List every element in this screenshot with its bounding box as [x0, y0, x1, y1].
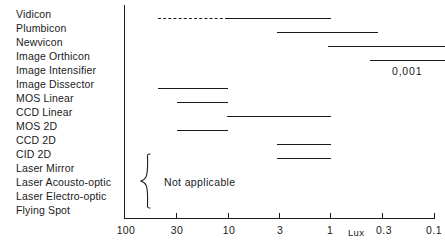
row-label-image-dissector: Image Dissector: [16, 79, 94, 90]
range-bar-mos-linear: [177, 102, 228, 103]
x-tick-100: [124, 213, 125, 218]
range-bar-mos-2d: [177, 130, 228, 131]
row-label-ccd-2d: CCD 2D: [16, 135, 56, 146]
range-bar-newvicon: [328, 46, 445, 47]
row-label-plumbicon: Plumbicon: [16, 23, 66, 34]
x-tick-label-100: 100: [117, 224, 136, 236]
x-tick-label-0.3: 0.3: [376, 224, 392, 236]
x-tick-label-3: 3: [277, 224, 283, 236]
x-axis-unit-label: Lux: [348, 227, 364, 238]
x-tick-label-10: 10: [223, 224, 235, 236]
row-label-ccd-linear: CCD Linear: [16, 107, 72, 118]
x-tick-1: [330, 213, 331, 218]
range-bar-vidicon-dashed: [158, 18, 228, 19]
x-tick-10: [228, 213, 229, 218]
not-applicable-label: Not applicable: [164, 176, 235, 188]
row-label-laser-electro-optic: Laser Electro-optic: [16, 191, 106, 202]
x-tick-label-1: 1: [327, 224, 333, 236]
y-axis-line: [124, 5, 125, 218]
row-label-mos-linear: MOS Linear: [16, 93, 74, 104]
row-label-vidicon: Vidicon: [16, 9, 51, 20]
row-label-laser-mirror: Laser Mirror: [16, 163, 74, 174]
row-label-image-intensifier: Image Intensifier: [16, 65, 96, 76]
x-tick-label-0.1: 0.1: [426, 224, 442, 236]
x-tick-label-30: 30: [171, 224, 183, 236]
sensor-sensitivity-chart: Vidicon Plumbicon Newvicon Image Orthico…: [0, 0, 445, 247]
x-axis-line: [124, 218, 435, 219]
row-label-laser-acousto-optic: Laser Acousto-optic: [16, 177, 111, 188]
x-tick-30: [176, 213, 177, 218]
range-bar-ccd-linear: [227, 116, 331, 117]
range-bar-cid-2d: [277, 158, 331, 159]
not-applicable-brace: [139, 153, 153, 209]
x-tick-0.3: [382, 213, 383, 218]
x-tick-0.1: [434, 213, 435, 218]
row-label-image-orthicon: Image Orthicon: [16, 51, 90, 62]
range-bar-image-dissector: [158, 88, 228, 89]
range-bar-plumbicon: [277, 32, 378, 33]
range-bar-ccd-2d: [277, 144, 331, 145]
x-tick-3: [279, 213, 280, 218]
row-label-flying-spot: Flying Spot: [16, 205, 70, 216]
row-label-mos-2d: MOS 2D: [16, 121, 57, 132]
range-bar-image-orthicon: [370, 60, 445, 61]
row-label-newvicon: Newvicon: [16, 37, 63, 48]
annotation-image-intensifier-value: 0,001: [392, 65, 422, 77]
row-label-cid-2d: CID 2D: [16, 149, 51, 160]
range-bar-vidicon-solid: [227, 18, 331, 19]
